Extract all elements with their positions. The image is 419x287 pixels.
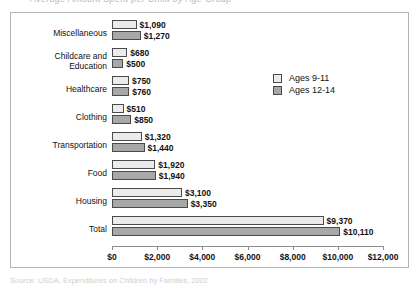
bar-value-label: $1,920 xyxy=(158,160,184,170)
category-label: Transportation xyxy=(11,140,107,150)
x-axis-tick-label: $10,000 xyxy=(322,252,353,262)
chart-row: Transportation$1,320$1,440 xyxy=(11,132,408,158)
plot-area: Miscellaneous$1,090$1,270Childcare and E… xyxy=(11,13,408,267)
legend-swatch-icon xyxy=(273,86,282,95)
bar-value-label: $850 xyxy=(134,115,153,125)
bar-value-label: $1,320 xyxy=(145,132,171,142)
x-axis-tick-label: $6,000 xyxy=(235,252,261,262)
legend-label: Ages 12-14 xyxy=(289,85,335,95)
chart-row: Total$9,370$10,110 xyxy=(11,216,408,242)
bar-ages-9-11: $1,320 xyxy=(112,132,142,141)
bar-ages-12-14: $10,110 xyxy=(112,227,340,236)
bar-group: $3,100$3,350 xyxy=(112,188,188,208)
bar-group: $1,320$1,440 xyxy=(112,132,145,152)
bar-group: $750$760 xyxy=(112,76,129,96)
chart-row: Housing$3,100$3,350 xyxy=(11,188,408,214)
bar-ages-12-14: $760 xyxy=(112,87,129,96)
bar-ages-12-14: $3,350 xyxy=(112,199,188,208)
chart-row: Healthcare$750$760 xyxy=(11,76,408,102)
bar-value-label: $3,100 xyxy=(185,188,211,198)
bar-value-label: $1,090 xyxy=(140,20,166,30)
legend-item: Ages 12-14 xyxy=(273,84,335,96)
bar-group: $9,370$10,110 xyxy=(112,216,340,236)
chart-title-clipped: Average Amount Spent per Child by Age Gr… xyxy=(30,0,260,4)
x-axis-tick-label: $2,000 xyxy=(144,252,170,262)
bar-value-label: $680 xyxy=(130,48,149,58)
bar-group: $680$500 xyxy=(112,48,127,68)
bar-value-label: $1,940 xyxy=(159,171,185,181)
category-label: Housing xyxy=(11,196,107,206)
bar-ages-9-11: $3,100 xyxy=(112,188,182,197)
legend-swatch-icon xyxy=(273,74,282,83)
legend-label: Ages 9-11 xyxy=(289,73,329,83)
bar-ages-9-11: $9,370 xyxy=(112,216,324,225)
category-label: Childcare and Education xyxy=(11,51,107,71)
bar-value-label: $10,110 xyxy=(343,227,373,237)
x-axis-tick xyxy=(157,246,158,250)
bar-ages-12-14: $1,940 xyxy=(112,171,156,180)
x-axis-tick xyxy=(383,246,384,250)
bar-ages-12-14: $1,270 xyxy=(112,31,141,40)
x-axis-tick-label: $12,000 xyxy=(368,252,399,262)
bar-value-label: $3,350 xyxy=(191,199,217,209)
x-axis-tick xyxy=(293,246,294,250)
chart-legend: Ages 9-11Ages 12-14 xyxy=(273,72,335,96)
chart-row: Miscellaneous$1,090$1,270 xyxy=(11,20,408,46)
bar-value-label: $9,370 xyxy=(327,216,353,226)
bar-ages-12-14: $500 xyxy=(112,59,123,68)
chart-frame: Miscellaneous$1,090$1,270Childcare and E… xyxy=(10,12,409,268)
bar-ages-9-11: $510 xyxy=(112,104,124,113)
bar-group: $1,090$1,270 xyxy=(112,20,141,40)
source-caption-clipped: Source: USDA, Expenditures on Children b… xyxy=(10,276,250,287)
chart-row: Childcare and Education$680$500 xyxy=(11,48,408,74)
bar-value-label: $1,270 xyxy=(144,31,170,41)
bar-ages-12-14: $1,440 xyxy=(112,143,145,152)
bar-ages-9-11: $680 xyxy=(112,48,127,57)
bar-ages-9-11: $1,090 xyxy=(112,20,137,29)
bar-group: $1,920$1,940 xyxy=(112,160,156,180)
chart-row: Food$1,920$1,940 xyxy=(11,160,408,186)
category-label: Healthcare xyxy=(11,84,107,94)
category-label: Miscellaneous xyxy=(11,28,107,38)
category-label: Food xyxy=(11,168,107,178)
bar-value-label: $760 xyxy=(132,87,151,97)
bar-ages-9-11: $750 xyxy=(112,76,129,85)
bar-ages-12-14: $850 xyxy=(112,115,131,124)
x-axis-tick xyxy=(112,246,113,250)
bar-ages-9-11: $1,920 xyxy=(112,160,155,169)
legend-item: Ages 9-11 xyxy=(273,72,335,84)
bar-value-label: $1,440 xyxy=(148,143,174,153)
x-axis-tick-label: $0 xyxy=(107,252,116,262)
x-axis-tick xyxy=(338,246,339,250)
chart-row: Clothing$510$850 xyxy=(11,104,408,130)
bar-value-label: $750 xyxy=(132,76,151,86)
category-label: Clothing xyxy=(11,112,107,122)
category-label: Total xyxy=(11,224,107,234)
x-axis-tick-label: $4,000 xyxy=(189,252,215,262)
bar-value-label: $500 xyxy=(126,59,145,69)
bar-value-label: $510 xyxy=(127,104,146,114)
x-axis-tick-label: $8,000 xyxy=(280,252,306,262)
x-axis-tick xyxy=(202,246,203,250)
bar-group: $510$850 xyxy=(112,104,131,124)
x-axis-tick xyxy=(248,246,249,250)
